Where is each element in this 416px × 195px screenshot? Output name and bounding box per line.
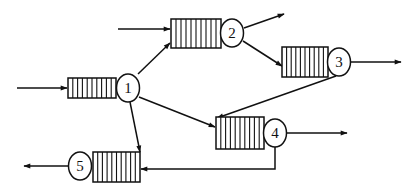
edge-1-to-2: [138, 43, 170, 74]
stations: 12345: [68, 19, 351, 182]
edge-1-to-5: [130, 102, 140, 152]
station-2: 2: [171, 19, 244, 48]
station-5: 5: [69, 152, 141, 182]
edge-3-to-4: [217, 76, 336, 118]
edge-4-to-5: [141, 147, 275, 169]
node-label-1: 1: [124, 80, 132, 96]
edge-2-to-external: [244, 14, 284, 28]
node-label-2: 2: [228, 25, 236, 41]
station-4: 4: [216, 117, 287, 149]
queueing-network-diagram: 12345: [0, 0, 416, 195]
station-1: 1: [68, 74, 140, 102]
node-label-4: 4: [271, 125, 279, 141]
node-label-3: 3: [335, 54, 343, 70]
station-3: 3: [282, 47, 351, 77]
edge-2-to-3: [243, 41, 282, 66]
node-label-5: 5: [76, 158, 84, 174]
edge-1-to-4: [139, 97, 215, 127]
